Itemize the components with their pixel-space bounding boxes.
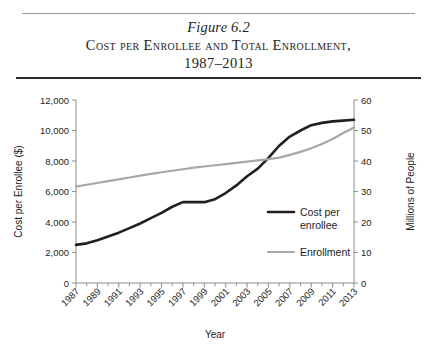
x-tick-label: 1991	[101, 286, 124, 309]
figure-heading: Figure 6.2 Cost per Enrollee and Total E…	[0, 19, 437, 72]
left-axis: 02,0004,0006,0008,00010,00012,000	[40, 95, 76, 289]
x-tick-label: 2005	[251, 286, 274, 309]
y-axis-title: Cost per Enrollee ($)	[13, 145, 24, 237]
right-tick-label: 0	[361, 278, 366, 289]
x-axis: 1987198919911993199519971999200120032005…	[59, 283, 360, 308]
left-tick-label: 10,000	[40, 125, 69, 136]
right-tick-label: 50	[361, 125, 372, 136]
chart-legend: Cost perenrolleeEnrollment	[268, 206, 350, 258]
x-tick-label: 2001	[208, 286, 231, 309]
right-tick-label: 30	[361, 186, 372, 197]
x-tick-label: 1993	[123, 286, 146, 309]
left-tick-label: 2,000	[45, 247, 69, 258]
legend-label-line2: enrollee	[300, 219, 338, 231]
x-tick-label: 2007	[273, 286, 296, 309]
x-tick-label: 1999	[187, 286, 210, 309]
right-tick-label: 60	[361, 95, 372, 106]
series-line-enrollment	[76, 127, 354, 186]
y2-axis-title: Millions of People	[405, 152, 416, 231]
left-tick-label: 6,000	[45, 186, 69, 197]
right-tick-label: 20	[361, 217, 372, 228]
x-tick-label: 1987	[59, 286, 82, 309]
x-tick-label: 2013	[337, 286, 360, 309]
right-tick-label: 10	[361, 247, 372, 258]
left-tick-label: 12,000	[40, 95, 69, 106]
left-tick-label: 8,000	[45, 156, 69, 167]
x-tick-label: 2009	[294, 286, 317, 309]
figure-page: Figure 6.2 Cost per Enrollee and Total E…	[0, 0, 437, 349]
x-tick-label: 2003	[230, 286, 253, 309]
x-axis-title: Year	[205, 329, 226, 340]
figure-number: Figure 6.2	[0, 19, 437, 36]
x-tick-label: 1997	[166, 286, 189, 309]
right-axis: 0102030405060	[354, 95, 372, 289]
heading-separator-rule	[16, 77, 421, 79]
right-tick-label: 40	[361, 156, 372, 167]
x-tick-label: 1995	[144, 286, 167, 309]
legend-label: Cost per	[300, 206, 340, 218]
line-chart: 02,0004,0006,0008,00010,00012,000 010203…	[0, 84, 437, 349]
axis-titles: Cost per Enrollee ($)Millions of PeopleY…	[13, 145, 416, 340]
chart-canvas: 02,0004,0006,0008,00010,00012,000 010203…	[0, 84, 437, 349]
x-tick-label: 2011	[316, 286, 338, 308]
figure-title-line-1: Cost per Enrollee and Total Enrollment,	[0, 36, 437, 54]
left-tick-label: 0	[64, 278, 69, 289]
top-horizontal-rule	[22, 13, 415, 14]
figure-title-line-2: 1987–2013	[0, 54, 437, 72]
left-tick-label: 4,000	[45, 217, 69, 228]
legend-label: Enrollment	[300, 246, 350, 258]
x-tick-label: 1989	[80, 286, 103, 309]
